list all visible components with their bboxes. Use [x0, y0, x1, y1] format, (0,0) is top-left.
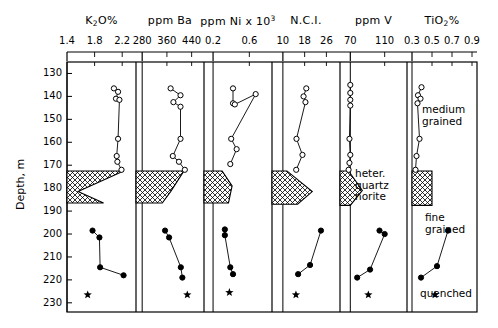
marker-star-ba [183, 290, 191, 298]
marker-filled-circle-v [382, 231, 387, 236]
y-tick-label: 190 [22, 205, 62, 216]
annotation-medium-grained: medium grained [422, 104, 465, 127]
y-tick-label: 230 [22, 297, 62, 308]
marker-filled-circle-ni [228, 265, 233, 270]
marker-open-circle-nci [294, 136, 299, 141]
x-tick-label-ni: 0.6 [235, 35, 263, 46]
marker-star-v [364, 290, 372, 298]
hatched-interval-tio2 [412, 171, 432, 205]
marker-star-nci [292, 290, 300, 298]
marker-filled-circle-k2o [121, 273, 126, 278]
hatched-interval-k2o [67, 171, 124, 203]
marker-open-circle-ni [230, 86, 235, 91]
marker-filled-circle-k2o [98, 265, 103, 270]
marker-open-circle-ni [229, 136, 234, 141]
marker-filled-circle-ni [222, 227, 227, 232]
marker-filled-circle-ba [180, 275, 185, 280]
marker-filled-circle-v [377, 228, 382, 233]
hatched-interval-ni [204, 171, 232, 203]
y-tick-label: 140 [22, 90, 62, 101]
x-tick-label-tio2: 0.9 [458, 35, 486, 46]
marker-filled-circle-nci [296, 272, 301, 277]
marker-filled-circle-ba [166, 235, 171, 240]
marker-open-circle-v [348, 82, 353, 87]
marker-star-k2o [84, 290, 92, 298]
x-tick-label-k2o: 1.8 [81, 35, 109, 46]
marker-filled-circle-k2o [97, 235, 102, 240]
marker-open-circle-nci [294, 167, 299, 172]
marker-open-circle-nci [300, 152, 305, 157]
marker-open-circle-k2o [117, 97, 122, 102]
hatched-interval-ba [136, 171, 184, 203]
series-line-tio2-fine-grained [421, 231, 448, 278]
plot-canvas [0, 0, 498, 328]
marker-open-circle-v [346, 167, 351, 172]
marker-filled-circle-ni [222, 233, 227, 238]
marker-open-circle-ba [182, 167, 187, 172]
y-tick-label: 130 [22, 67, 62, 78]
annotation-fine-grained: fine grained [425, 212, 465, 235]
marker-star-ni [225, 288, 233, 296]
y-tick-label: 160 [22, 136, 62, 147]
marker-filled-circle-tio2 [434, 264, 439, 269]
y-axis-label: Depth, m [14, 159, 27, 210]
panel-title-tio2: TiO2% [387, 14, 497, 28]
marker-filled-circle-k2o [90, 228, 95, 233]
marker-open-circle-ba [171, 100, 176, 105]
marker-open-circle-k2o [119, 167, 124, 172]
marker-open-circle-k2o [114, 153, 119, 158]
marker-open-circle-v [348, 103, 353, 108]
x-tick-label-ni: 0.2 [199, 35, 227, 46]
marker-filled-circle-ba [162, 228, 167, 233]
y-tick-label: 170 [22, 159, 62, 170]
marker-open-circle-v [348, 90, 353, 95]
marker-open-circle-ba [176, 159, 181, 164]
marker-open-circle-v [347, 160, 352, 165]
marker-filled-circle-v [367, 267, 372, 272]
annotation-heter-quartz-norite: heter. quartz norite [355, 168, 389, 203]
y-tick-label: 180 [22, 182, 62, 193]
marker-open-circle-ni [234, 147, 239, 152]
marker-open-circle-ba [178, 136, 183, 141]
marker-open-circle-ba [170, 153, 175, 158]
hatched-interval-nci [272, 171, 312, 204]
depth-profile-figure: 130140150160170180190200210220230Depth, … [0, 0, 498, 328]
y-tick-label: 220 [22, 274, 62, 285]
y-tick-label: 210 [22, 251, 62, 262]
marker-open-circle-ni [232, 102, 237, 107]
marker-open-circle-k2o [115, 136, 120, 141]
marker-filled-circle-v [355, 275, 360, 280]
x-tick-label-k2o: 1.4 [53, 35, 81, 46]
marker-open-circle-nci [301, 94, 306, 99]
marker-open-circle-v [348, 97, 353, 102]
x-tick-label-v: 70 [336, 35, 364, 46]
marker-open-circle-ba [178, 104, 183, 109]
marker-filled-circle-tio2 [418, 275, 423, 280]
marker-open-circle-ni [253, 92, 258, 97]
marker-filled-circle-ba [178, 265, 183, 270]
x-tick-label-v: 110 [371, 35, 399, 46]
marker-open-circle-k2o [115, 89, 120, 94]
marker-filled-circle-ni [230, 272, 235, 277]
marker-open-circle-tio2 [417, 136, 422, 141]
marker-filled-circle-nci [318, 228, 323, 233]
series-line-ni-medium-grained [230, 88, 255, 164]
marker-open-circle-ba [168, 86, 173, 91]
y-tick-label: 150 [22, 113, 62, 124]
marker-open-circle-tio2 [419, 85, 424, 90]
marker-open-circle-ba [178, 93, 183, 98]
marker-open-circle-tio2 [414, 153, 419, 158]
marker-open-circle-v [347, 136, 352, 141]
marker-open-circle-tio2 [413, 167, 418, 172]
marker-open-circle-nci [304, 86, 309, 91]
marker-open-circle-nci [303, 100, 308, 105]
marker-open-circle-k2o [115, 159, 120, 164]
y-tick-label: 200 [22, 228, 62, 239]
marker-open-circle-tio2 [415, 101, 420, 106]
marker-open-circle-ni [228, 161, 233, 166]
marker-open-circle-v [348, 152, 353, 157]
annotation-quenched: quenched [420, 288, 472, 300]
marker-filled-circle-nci [307, 262, 312, 267]
